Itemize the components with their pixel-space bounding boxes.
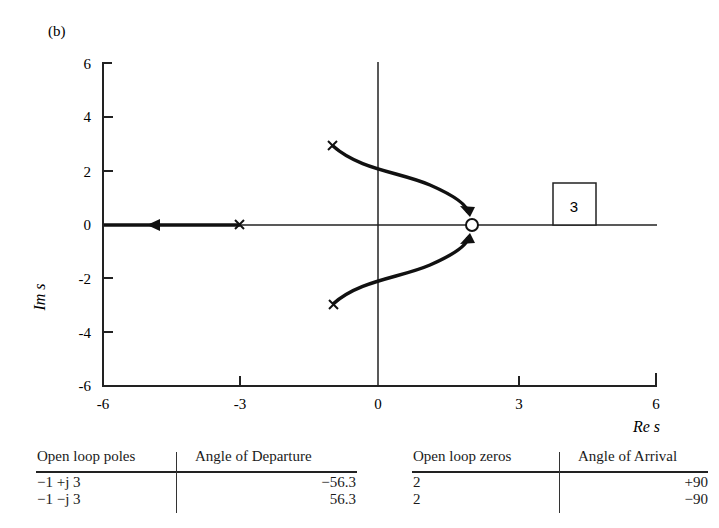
pole-marker-upper — [328, 141, 337, 150]
table-rule — [36, 471, 357, 473]
poles-header: Open loop poles — [37, 448, 135, 465]
x-axis-label: Re s — [632, 418, 660, 435]
x-tick-labels: -6 -3 0 3 6 — [97, 396, 661, 412]
svg-text:6: 6 — [84, 56, 92, 72]
locus-branch-upper — [333, 146, 468, 213]
pole-row-1-pole: −1 +j 3 — [37, 474, 81, 491]
svg-text:2: 2 — [84, 164, 92, 180]
root-locus-plot: (b) 6 4 2 0 -2 -4 -6 -6 -3 0 3 6 Re s Im… — [0, 0, 719, 440]
y-axis-label: Im s — [31, 283, 48, 311]
zero-row-2-angle: −90 — [685, 491, 708, 508]
pole-row-2-pole: −1 −j 3 — [37, 491, 81, 508]
arrow-up-icon — [460, 233, 475, 244]
departure-header: Angle of Departure — [195, 448, 312, 465]
zeros-table: Open loop zeros Angle of Arrival 2 +90 2… — [412, 448, 708, 518]
svg-text:6: 6 — [652, 396, 660, 412]
zero-row-1-zero: 2 — [413, 474, 421, 491]
multiplicity-label: 3 — [570, 198, 578, 215]
svg-text:-4: -4 — [79, 325, 92, 341]
x-ticks — [240, 373, 656, 386]
svg-text:-3: -3 — [234, 396, 247, 412]
svg-text:4: 4 — [84, 109, 92, 125]
pole-row-2-angle: 56.3 — [330, 491, 356, 508]
pole-row-1-angle: −56.3 — [321, 474, 356, 491]
svg-text:-6: -6 — [79, 378, 92, 394]
poles-table: Open loop poles Angle of Departure −1 +j… — [36, 448, 356, 518]
svg-text:-6: -6 — [97, 396, 110, 412]
zero-row-2-zero: 2 — [413, 491, 421, 508]
zeros-header: Open loop zeros — [413, 448, 511, 465]
svg-text:0: 0 — [374, 396, 382, 412]
arrow-down-icon — [460, 206, 475, 217]
arrival-header: Angle of Arrival — [578, 448, 677, 465]
svg-text:0: 0 — [84, 217, 92, 233]
locus-branch-lower — [333, 237, 468, 304]
zero-marker — [466, 219, 478, 231]
arrow-left-icon — [147, 219, 160, 231]
figure-label: (b) — [48, 23, 66, 40]
y-tick-labels: 6 4 2 0 -2 -4 -6 — [79, 56, 92, 394]
svg-text:-2: -2 — [79, 271, 92, 287]
svg-text:3: 3 — [515, 396, 523, 412]
column-divider — [176, 452, 177, 513]
column-divider — [559, 452, 560, 513]
zero-row-1-angle: +90 — [685, 474, 708, 491]
